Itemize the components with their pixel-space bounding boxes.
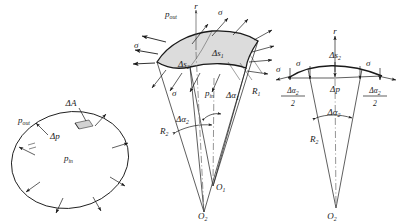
label-half-angle-right-den: 2 [373,99,377,108]
label-sigma-bottom-middle: σ [172,88,177,98]
label-sigma-left-middle: σ [134,40,139,50]
diagram-canvas: ΔA pout Δp pin [0,0,407,221]
label-sigma-top-middle: σ [218,7,223,17]
label-delta-p-left: Δp [49,131,60,141]
label-sigma-left-right-fig: σ [296,58,301,68]
label-delta-area: ΔA [65,98,77,108]
label-delta-p-right: Δp [329,84,340,94]
label-radial-axis-right: r [333,26,337,36]
label-half-angle-left-den: 2 [291,99,295,108]
label-sigma-right-middle: σ [276,64,281,74]
label-sigma-right-right-fig: σ [366,58,371,68]
label-radial-axis-middle: r [194,1,198,11]
